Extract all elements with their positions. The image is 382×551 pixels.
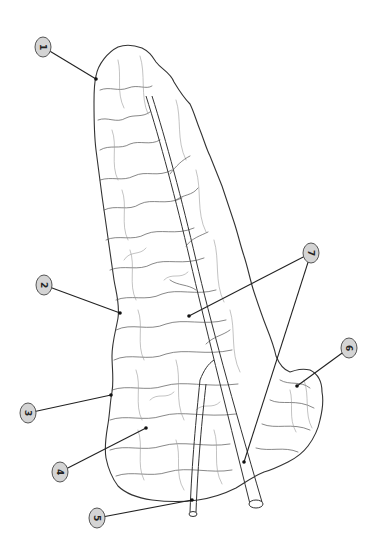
leader-dot-7b <box>242 460 246 464</box>
organ-outline <box>94 45 323 501</box>
callout-4-label: 4 <box>55 469 65 475</box>
leader-line-5 <box>97 500 192 518</box>
pancreas-diagram: 1 2 3 4 5 6 7 <box>0 0 382 551</box>
callout-6-label: 6 <box>344 345 354 351</box>
leader-dot-6 <box>295 384 299 388</box>
callout-2: 2 <box>36 275 52 295</box>
accessory-duct-opening <box>189 512 197 517</box>
leader-dot-7a <box>187 314 191 318</box>
callout-3: 3 <box>20 403 36 423</box>
callout-1-label: 1 <box>38 44 48 50</box>
callout-5-label: 5 <box>92 515 102 521</box>
callout-4: 4 <box>52 462 68 482</box>
leader-dot-5 <box>190 498 194 502</box>
leader-line-3 <box>28 395 111 413</box>
callout-6: 6 <box>341 338 357 358</box>
callout-2-label: 2 <box>39 282 49 288</box>
callout-3-label: 3 <box>23 410 33 416</box>
main-duct-opening <box>249 500 263 508</box>
leader-dot-3 <box>109 393 113 397</box>
leader-line-2 <box>44 285 120 313</box>
callout-5: 5 <box>89 508 105 528</box>
leader-dot-1 <box>94 77 98 81</box>
callout-7: 7 <box>303 243 319 263</box>
callout-7-label: 7 <box>306 250 316 256</box>
organ-body <box>94 45 323 501</box>
callout-1: 1 <box>35 37 51 57</box>
leader-line-6 <box>297 348 349 386</box>
leader-line-1 <box>43 47 96 79</box>
leader-dot-4 <box>144 426 148 430</box>
leader-dot-2 <box>118 311 122 315</box>
